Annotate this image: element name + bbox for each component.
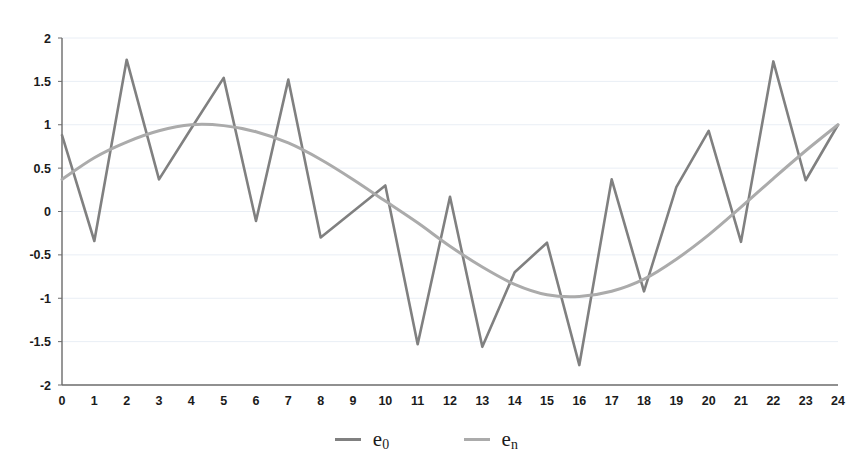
x-tick-label: 15 [540, 394, 554, 408]
x-tick-label: 23 [799, 394, 813, 408]
legend-swatch-en [464, 438, 490, 441]
x-tick-label: 4 [188, 394, 195, 408]
chart-container: 21.510.50-0.5-1-1.5-2 012345678910111213… [0, 0, 853, 463]
x-tick-label: 7 [285, 394, 292, 408]
line-chart-svg: 21.510.50-0.5-1-1.5-2 012345678910111213… [0, 0, 853, 415]
y-tick-label: -1.5 [29, 335, 51, 349]
y-tick-label: -1 [40, 292, 51, 306]
x-axis-tick-labels: 0123456789101112131415161718192021222324 [59, 394, 845, 408]
x-tick-label: 24 [831, 394, 845, 408]
x-tick-label: 3 [156, 394, 163, 408]
x-tick-label: 6 [253, 394, 260, 408]
data-series-group [62, 60, 838, 365]
x-tick-label: 9 [350, 394, 357, 408]
x-tick-label: 18 [637, 394, 651, 408]
chart-legend: e0 en [0, 415, 853, 463]
legend-swatch-e0 [335, 438, 361, 441]
y-axis-tick-labels: 21.510.50-0.5-1-1.5-2 [29, 32, 51, 393]
y-tick-label: 0.5 [34, 162, 51, 176]
x-tick-label: 10 [378, 394, 392, 408]
x-tick-label: 14 [508, 394, 522, 408]
x-tick-label: 20 [702, 394, 716, 408]
x-tick-label: 17 [605, 394, 619, 408]
x-tick-label: 21 [734, 394, 748, 408]
legend-item-en[interactable]: en [464, 427, 519, 452]
legend-label-e0: e0 [373, 427, 390, 452]
x-tick-label: 16 [572, 394, 586, 408]
gridlines [62, 38, 838, 342]
x-tick-label: 11 [411, 394, 424, 408]
x-tick-label: 5 [220, 394, 227, 408]
plot-area: 21.510.50-0.5-1-1.5-2 012345678910111213… [0, 0, 853, 415]
legend-label-en: en [502, 427, 519, 452]
legend-item-e0[interactable]: e0 [335, 427, 390, 452]
x-tick-label: 12 [443, 394, 457, 408]
x-tick-label: 22 [766, 394, 780, 408]
x-tick-label: 0 [59, 394, 66, 408]
y-tick-label: 2 [44, 32, 51, 46]
x-tick-label: 2 [123, 394, 130, 408]
x-tick-label: 13 [475, 394, 489, 408]
y-tick-label: 0 [44, 205, 51, 219]
y-tick-label: -0.5 [29, 248, 51, 262]
y-tick-label: 1 [44, 118, 51, 132]
x-tick-label: 19 [669, 394, 683, 408]
x-tick-label: 8 [317, 394, 324, 408]
y-tick-label: 1.5 [34, 75, 51, 89]
x-tick-label: 1 [91, 394, 98, 408]
series-line-e0 [62, 60, 838, 365]
y-tick-label: -2 [40, 379, 51, 393]
